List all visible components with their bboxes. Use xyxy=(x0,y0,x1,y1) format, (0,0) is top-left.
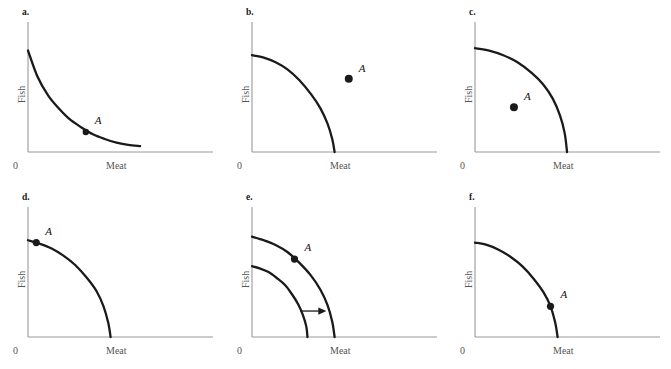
point-a-label-a: A xyxy=(95,114,102,126)
panel-d: d. AFishMeat0 xyxy=(0,185,224,369)
origin-label-e: 0 xyxy=(237,345,242,356)
point-a-label-c: A xyxy=(524,90,531,102)
panel-c: c. AFishMeat0 xyxy=(447,0,671,185)
point-a-marker-a xyxy=(83,129,89,135)
point-a-marker-d xyxy=(33,239,40,246)
x-axis-label-a: Meat xyxy=(106,160,127,171)
point-a-marker-b xyxy=(345,75,353,83)
plot-area-f: AFishMeat0 xyxy=(447,185,671,369)
origin-label-a: 0 xyxy=(13,160,18,171)
origin-label-f: 0 xyxy=(460,345,465,356)
ppf-curve-e-0 xyxy=(252,237,335,337)
panel-b: b. AFishMeat0 xyxy=(224,0,447,185)
ppf-curve-f-0 xyxy=(475,243,558,337)
chart-svg-f xyxy=(447,185,671,369)
y-axis-label-c: Fish xyxy=(463,86,474,103)
ppf-curve-e-1 xyxy=(252,266,307,337)
point-a-label-d: A xyxy=(45,225,52,237)
x-axis-label-e: Meat xyxy=(330,345,351,356)
x-axis-label-d: Meat xyxy=(106,345,127,356)
x-axis-label-c: Meat xyxy=(553,160,574,171)
point-a-marker-c xyxy=(510,103,518,111)
point-a-marker-e xyxy=(291,256,298,263)
x-axis-label-b: Meat xyxy=(330,160,351,171)
chart-svg-d xyxy=(0,185,224,369)
panel-a: a. AFishMeat0 xyxy=(0,0,224,185)
plot-area-b: AFishMeat0 xyxy=(224,0,447,185)
chart-svg-b xyxy=(224,0,448,185)
panel-f: f. AFishMeat0 xyxy=(447,185,671,369)
y-axis-label-e: Fish xyxy=(240,271,251,288)
chart-svg-a xyxy=(0,0,224,185)
x-axis-label-f: Meat xyxy=(553,345,574,356)
point-a-marker-f xyxy=(547,303,554,310)
chart-svg-c xyxy=(447,0,671,185)
y-axis-label-f: Fish xyxy=(463,271,474,288)
point-a-label-f: A xyxy=(561,288,568,300)
ppf-curve-b-0 xyxy=(252,55,335,152)
y-axis-label-d: Fish xyxy=(16,271,27,288)
y-axis-label-b: Fish xyxy=(240,86,251,103)
shift-arrow-head-e xyxy=(318,307,326,314)
plot-area-d: AFishMeat0 xyxy=(0,185,224,369)
origin-label-d: 0 xyxy=(13,345,18,356)
plot-area-a: AFishMeat0 xyxy=(0,0,224,185)
ppf-curve-d-0 xyxy=(28,240,111,337)
origin-label-c: 0 xyxy=(460,160,465,171)
plot-area-c: AFishMeat0 xyxy=(447,0,671,185)
origin-label-b: 0 xyxy=(237,160,242,171)
plot-area-e: AFishMeat0 xyxy=(224,185,447,369)
point-a-label-e: A xyxy=(304,241,311,253)
point-a-label-b: A xyxy=(359,62,366,74)
chart-svg-e xyxy=(224,185,448,369)
panel-e: e. AFishMeat0 xyxy=(224,185,447,369)
ppf-curve-c-0 xyxy=(475,48,567,152)
y-axis-label-a: Fish xyxy=(16,86,27,103)
figure-panel-grid: a. AFishMeat0 b. AFishMeat0 c. AFishMeat… xyxy=(0,0,671,369)
